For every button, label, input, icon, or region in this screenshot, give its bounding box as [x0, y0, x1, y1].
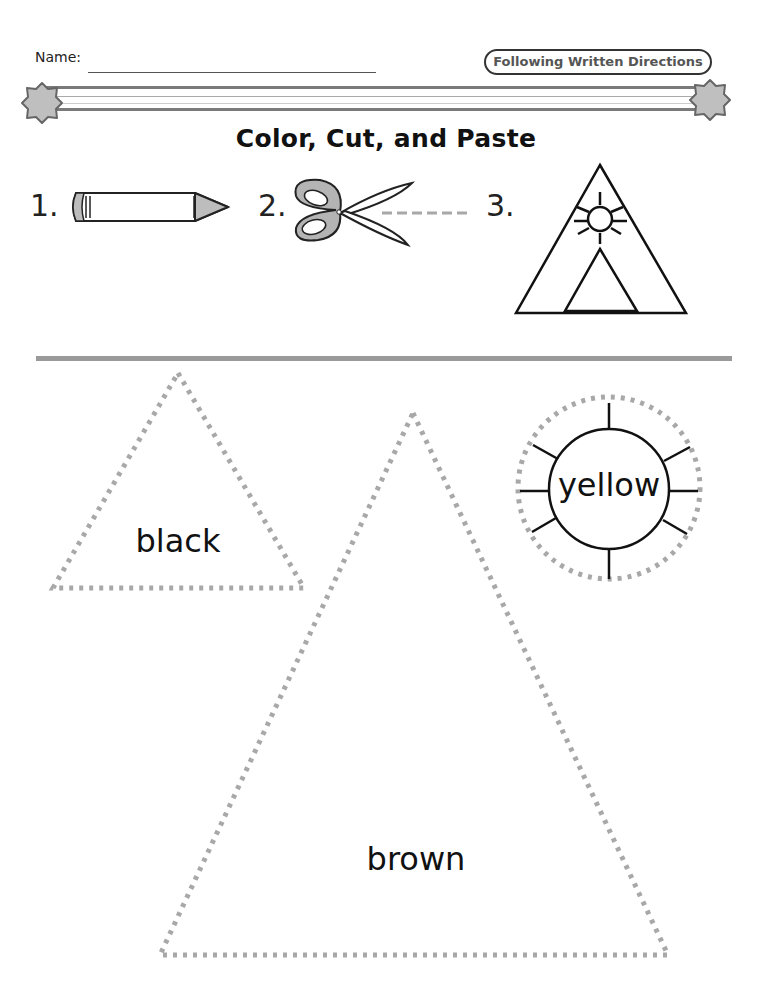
name-label: Name:: [35, 49, 81, 65]
crayon-icon: [73, 193, 228, 221]
cutout-label-brown: brown: [346, 840, 486, 878]
step-2-number: 2.: [258, 188, 287, 223]
cutout-label-yellow: yellow: [549, 466, 669, 504]
step-3-number: 3.: [486, 188, 515, 223]
header-banner: [40, 86, 720, 111]
topic-badge: Following Written Directions: [484, 49, 712, 75]
section-divider: [36, 356, 732, 361]
name-field[interactable]: [88, 72, 376, 73]
star-left-icon: [22, 83, 62, 123]
star-right-icon: [690, 80, 730, 120]
step-1-number: 1.: [30, 188, 59, 223]
scissors-icon: [296, 180, 413, 245]
page-title: Color, Cut, and Paste: [0, 124, 772, 153]
cutout-label-black: black: [118, 522, 238, 560]
teepee-with-sun-icon: [516, 165, 686, 313]
